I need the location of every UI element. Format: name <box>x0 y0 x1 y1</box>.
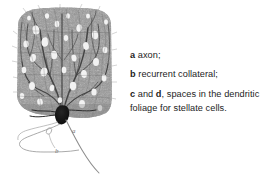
collateral-terminal-branch <box>49 134 55 148</box>
diagram-label-collateral: b <box>55 147 59 155</box>
legend-text-b: recurrent collateral; <box>136 69 218 79</box>
neuron-drawing: a b <box>0 0 130 180</box>
legend-entry-b: b recurrent collateral; <box>130 67 277 81</box>
legend-entry-a: a axon; <box>130 48 277 62</box>
diagram-label-axon: a <box>72 127 76 135</box>
figure-page: a b a axon; b recurrent collateral; c an… <box>0 0 277 180</box>
legend-entry-cd: c and d, spaces in the dendritic foliage… <box>130 87 277 116</box>
axon-line <box>66 120 99 173</box>
dendritic-arbor <box>14 4 116 122</box>
figure-legend: a axon; b recurrent collateral; c and d,… <box>130 48 277 116</box>
legend-text-cd-mid: and <box>135 89 156 99</box>
legend-text-a: axon; <box>135 50 160 60</box>
purkinje-cell-illustration: a b <box>0 0 130 180</box>
